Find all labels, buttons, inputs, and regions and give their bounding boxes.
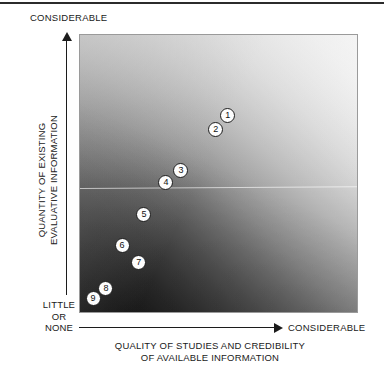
data-point-6: 6 xyxy=(115,238,130,253)
x-axis-arrowhead-icon xyxy=(274,323,283,333)
x-axis-high-label: CONSIDERABLE xyxy=(288,322,365,333)
data-point-9: 9 xyxy=(86,291,101,306)
y-axis-arrowhead-icon xyxy=(62,32,72,41)
x-axis-title: QUALITY OF STUDIES AND CREDIBILITY OF AV… xyxy=(60,340,360,364)
y-axis-title: QUANTITY OF EXISTING EVALUATIVE INFORMAT… xyxy=(36,80,60,280)
x-axis-title-line2: OF AVAILABLE INFORMATION xyxy=(60,352,360,364)
gradient-lower-right-darken xyxy=(80,35,357,312)
data-point-1: 1 xyxy=(220,108,235,123)
x-axis-line xyxy=(79,327,275,328)
data-point-5: 5 xyxy=(136,207,151,222)
y-axis-title-line2: EVALUATIVE INFORMATION xyxy=(48,80,60,280)
y-axis-line xyxy=(66,40,67,295)
top-divider-rule xyxy=(0,2,384,4)
y-axis-high-label: CONSIDERABLE xyxy=(30,12,107,23)
data-point-2: 2 xyxy=(208,122,223,137)
x-axis-title-line1: QUALITY OF STUDIES AND CREDIBILITY xyxy=(60,340,360,352)
plot-area: 123456789 xyxy=(79,34,358,313)
y-axis-low-label-line1: LITTLE xyxy=(36,299,82,311)
data-point-8: 8 xyxy=(98,281,113,296)
y-axis-title-line1: QUANTITY OF EXISTING xyxy=(36,80,48,280)
y-axis-low-label-line3: NONE xyxy=(36,322,82,334)
y-axis-low-label-line2: OR xyxy=(36,311,82,323)
y-axis-low-label: LITTLE OR NONE xyxy=(36,299,82,334)
chart-figure: 123456789 CONSIDERABLE LITTLE OR NONE QU… xyxy=(0,0,384,374)
